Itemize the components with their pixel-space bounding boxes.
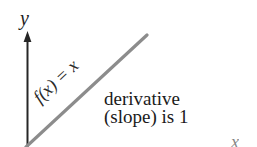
y-axis-label: y	[18, 7, 29, 30]
annotation-line-2: (slope) is 1	[104, 106, 188, 128]
y-axis-arrowhead-icon	[24, 31, 32, 42]
figure-canvas: y x f(x) = x derivative (slope) is 1	[0, 0, 257, 147]
diagram-svg: y x f(x) = x derivative (slope) is 1	[0, 0, 257, 147]
x-axis-label: x	[230, 132, 239, 147]
